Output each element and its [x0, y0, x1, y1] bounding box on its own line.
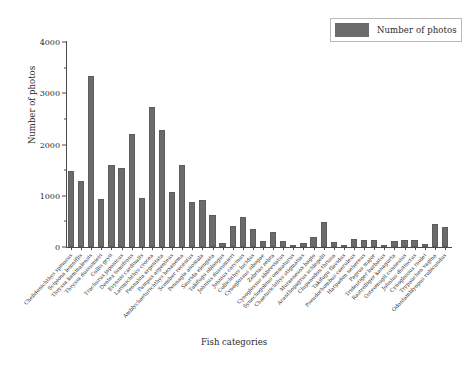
bar	[98, 199, 104, 247]
y-tick-mark	[62, 93, 66, 94]
bar	[199, 200, 205, 247]
bar	[129, 134, 135, 247]
bar	[189, 202, 195, 247]
legend-swatch-number-of-photos	[335, 23, 369, 37]
bar-chart-figure: Number of photos Number of photos 010002…	[0, 0, 468, 374]
y-tick-mark-minor	[64, 170, 66, 171]
y-tick-mark	[62, 144, 66, 145]
bar	[310, 237, 316, 247]
bar	[68, 171, 74, 247]
bar	[361, 240, 367, 247]
bar	[169, 192, 175, 247]
bar	[401, 240, 407, 247]
bar	[351, 239, 357, 247]
bar	[209, 215, 215, 247]
bar	[78, 181, 84, 247]
y-tick-mark-minor	[64, 118, 66, 119]
bar	[118, 168, 124, 247]
bar	[108, 165, 114, 247]
plot-area: 01000200030004000	[66, 42, 450, 247]
bar	[139, 198, 145, 247]
y-tick-mark	[62, 247, 66, 248]
y-tick-mark	[62, 195, 66, 196]
bar	[88, 76, 94, 247]
bar	[179, 165, 185, 248]
bar	[411, 240, 417, 247]
bar	[321, 222, 327, 247]
bar	[442, 227, 448, 247]
bar	[159, 130, 165, 247]
bar	[371, 240, 377, 247]
y-tick-mark	[62, 42, 66, 43]
bar	[230, 226, 236, 247]
bar	[432, 224, 438, 247]
bar	[270, 232, 276, 247]
y-axis-label: Number of photos	[27, 25, 37, 185]
y-tick-mark-minor	[64, 221, 66, 222]
x-axis-category-labels: Chelidonichthys spinosusScipiona lemnifl…	[0, 250, 468, 350]
bar	[240, 217, 246, 247]
bar	[250, 229, 256, 247]
chart-legend: Number of photos	[330, 18, 462, 42]
bar	[149, 107, 155, 247]
x-axis-label: Fish categories	[0, 337, 468, 347]
legend-label-number-of-photos: Number of photos	[377, 25, 457, 35]
y-tick-mark-minor	[64, 67, 66, 68]
